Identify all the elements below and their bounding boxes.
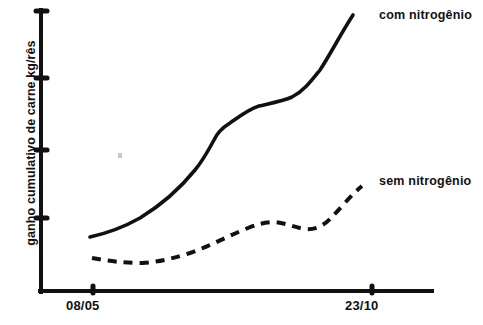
chart-plot-area (0, 0, 483, 325)
series-line-sem-nitrogenio (92, 186, 362, 263)
scan-speck-artifact (118, 153, 122, 158)
x-axis-tick-label-right: 23/10 (345, 298, 379, 313)
y-axis-label: ganho cumulativo de carne kg/rês (24, 28, 38, 258)
series-line-com-nitrogenio (90, 15, 353, 237)
x-axis-tick-label-left: 08/05 (66, 298, 100, 313)
series-label-sem-nitrogenio: sem nitrogênio (379, 174, 471, 188)
series-label-com-nitrogenio: com nitrogênio (379, 8, 472, 22)
chart-container: ganho cumulativo de carne kg/rês 08/05 2… (0, 0, 483, 325)
